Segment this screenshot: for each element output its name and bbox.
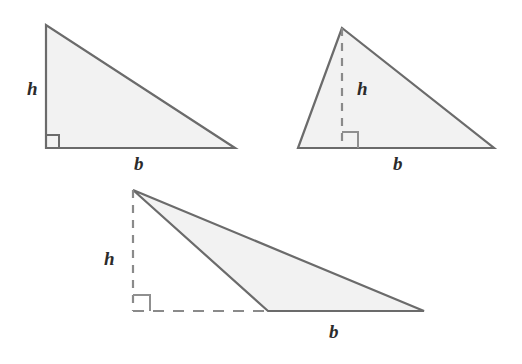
height-label-triangle-2: h xyxy=(357,78,368,99)
acute-triangle-shape xyxy=(298,28,494,148)
triangle-figure: h b h b h b xyxy=(0,0,522,364)
right-angle-marker-icon xyxy=(133,295,150,311)
base-label-triangle-2: b xyxy=(393,153,403,174)
height-label-triangle-1: h xyxy=(27,78,38,99)
base-label-triangle-1: b xyxy=(134,153,144,174)
base-label-triangle-3: b xyxy=(329,321,339,342)
right-triangle-shape xyxy=(46,25,235,148)
right-triangle-group: h b xyxy=(27,25,235,174)
obtuse-triangle-shape xyxy=(133,190,424,311)
acute-triangle-group: h b xyxy=(298,28,494,174)
obtuse-triangle-group: h b xyxy=(104,190,424,342)
triangle-diagram-canvas: h b h b h b xyxy=(0,0,522,364)
height-label-triangle-3: h xyxy=(104,248,115,269)
